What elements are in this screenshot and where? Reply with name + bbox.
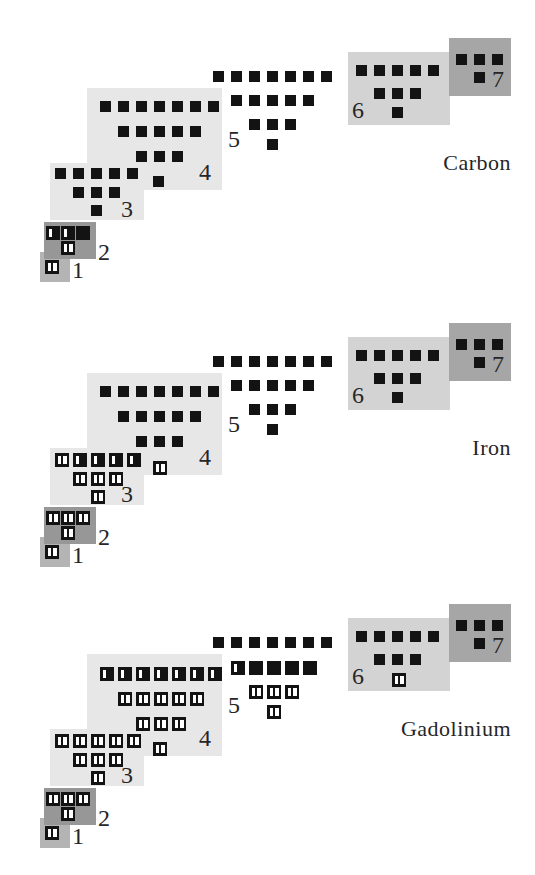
- orbital-gadolinium-4f-6: [190, 667, 204, 681]
- orbital-gadolinium-4f-2: [118, 667, 132, 681]
- orbital-gadolinium-4s-1: [153, 742, 167, 756]
- orbital-gadolinium-6d-5: [428, 631, 439, 642]
- shell-label-1: 1: [72, 258, 84, 282]
- orbital-gadolinium-3p-1: [73, 753, 87, 767]
- orbital-gadolinium-6p-2: [392, 654, 403, 665]
- orbital-iron-3d-2: [73, 453, 87, 467]
- orbital-gadolinium-3d-1: [55, 734, 69, 748]
- shell-label-3: 3: [121, 482, 133, 506]
- electron-mark: [49, 514, 53, 522]
- electron-mark: [270, 708, 274, 716]
- orbital-carbon-5f-6: [303, 71, 314, 82]
- electron-mark: [69, 244, 73, 252]
- orbital-iron-7p-3: [492, 339, 503, 350]
- orbital-gadolinium-4d-3: [154, 692, 168, 706]
- electron-mark: [69, 529, 73, 537]
- orbital-carbon-6d-2: [374, 65, 385, 76]
- electron-mark: [103, 670, 107, 678]
- electron-mark: [275, 708, 279, 716]
- electron-mark: [112, 475, 116, 483]
- orbital-carbon-5f-1: [213, 71, 224, 82]
- orbital-gadolinium-5d-4: [285, 661, 299, 675]
- orbital-gadolinium-4p-2: [154, 717, 168, 731]
- electron-mark: [257, 688, 261, 696]
- electron-mark: [94, 756, 98, 764]
- orbital-gadolinium-2p-2: [61, 792, 75, 806]
- orbital-iron-5p-2: [267, 404, 278, 415]
- orbital-gadolinium-5d-3: [267, 661, 281, 675]
- electron-mark: [211, 670, 215, 678]
- orbital-iron-4f-3: [136, 386, 147, 397]
- orbital-iron-4f-6: [190, 386, 201, 397]
- orbital-iron-5f-1: [213, 356, 224, 367]
- diagram-gadolinium: 1234567Gadolinium: [0, 566, 535, 858]
- electron-mark: [69, 514, 73, 522]
- electron-mark: [175, 670, 179, 678]
- orbital-iron-4d-5: [190, 411, 201, 422]
- orbital-iron-5s-1: [267, 424, 278, 435]
- orbital-carbon-2s-1: [61, 241, 75, 255]
- orbital-carbon-6p-3: [410, 88, 421, 99]
- orbital-gadolinium-3d-3: [91, 734, 105, 748]
- element-label-carbon: Carbon: [443, 152, 511, 174]
- electron-mark: [99, 774, 103, 782]
- diagram-iron: 1234567Iron: [0, 285, 535, 577]
- electron-mark: [234, 664, 238, 672]
- orbital-iron-4p-2: [154, 436, 165, 447]
- orbital-gadolinium-4f-7: [208, 667, 222, 681]
- orbital-gadolinium-4d-1: [118, 692, 132, 706]
- orbital-gadolinium-5f-5: [285, 637, 296, 648]
- orbital-gadolinium-5s-1: [267, 705, 281, 719]
- electron-mark: [112, 456, 116, 464]
- electron-mark: [49, 795, 53, 803]
- orbital-carbon-5d-3: [267, 95, 278, 106]
- electron-mark: [53, 548, 57, 556]
- electron-mark: [157, 695, 161, 703]
- orbital-gadolinium-4f-4: [154, 667, 168, 681]
- orbital-carbon-4f-3: [136, 101, 147, 112]
- orbital-carbon-6d-3: [392, 65, 403, 76]
- electron-mark: [53, 263, 57, 271]
- shell-label-4: 4: [199, 160, 211, 184]
- orbital-carbon-5f-4: [267, 71, 278, 82]
- shell-label-2: 2: [98, 806, 110, 830]
- orbital-gadolinium-4f-5: [172, 667, 186, 681]
- orbital-carbon-5f-7: [321, 71, 332, 82]
- orbital-iron-3s-1: [91, 490, 105, 504]
- electron-mark: [69, 795, 73, 803]
- orbital-iron-2p-3: [76, 511, 90, 525]
- electron-mark: [54, 514, 58, 522]
- orbital-carbon-5f-3: [249, 71, 260, 82]
- orbital-carbon-4f-6: [190, 101, 201, 112]
- electron-mark: [198, 695, 202, 703]
- orbital-filling-figure: 1234567Carbon1234567Iron1234567Gadoliniu…: [0, 0, 535, 875]
- electron-mark: [64, 529, 68, 537]
- electron-mark: [161, 464, 165, 472]
- orbital-carbon-3p-3: [109, 187, 120, 198]
- orbital-carbon-5s-1: [267, 139, 278, 150]
- electron-mark: [162, 695, 166, 703]
- orbital-iron-3d-1: [55, 453, 69, 467]
- orbital-carbon-7p-1: [456, 54, 467, 65]
- orbital-iron-3p-1: [73, 472, 87, 486]
- electron-mark: [49, 229, 53, 237]
- shell-label-5: 5: [228, 127, 240, 151]
- shell-label-6: 6: [352, 383, 364, 407]
- electron-mark: [180, 720, 184, 728]
- orbital-gadolinium-5p-3: [285, 685, 299, 699]
- orbital-carbon-2p-1: [46, 226, 60, 240]
- electron-mark: [126, 695, 130, 703]
- orbital-iron-1s-1: [45, 545, 59, 559]
- electron-mark: [79, 795, 83, 803]
- electron-mark: [121, 670, 125, 678]
- electron-mark: [400, 676, 404, 684]
- orbital-iron-5d-2: [249, 380, 260, 391]
- orbital-iron-4d-3: [154, 411, 165, 422]
- orbital-gadolinium-5p-1: [249, 685, 263, 699]
- orbital-carbon-5p-2: [267, 119, 278, 130]
- orbital-iron-7p-1: [456, 339, 467, 350]
- orbital-iron-5d-4: [285, 380, 296, 391]
- orbital-iron-4f-4: [154, 386, 165, 397]
- electron-mark: [161, 745, 165, 753]
- orbital-iron-5f-4: [267, 356, 278, 367]
